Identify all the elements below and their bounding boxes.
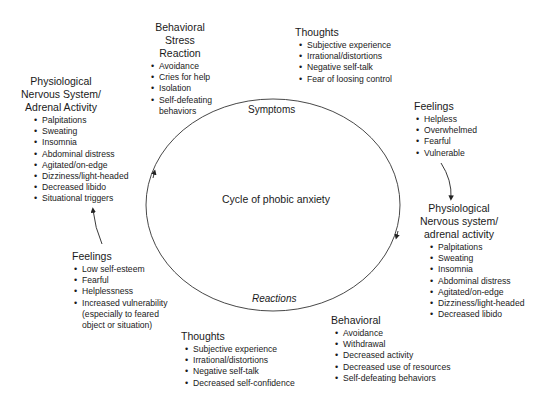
behavioral-stress-reaction-block: Behavioral Stress Reaction Avoidance Cri… xyxy=(143,21,217,117)
list-item: Helplessness xyxy=(74,286,168,297)
block-title: Behavioral Stress Reaction xyxy=(143,21,217,60)
block-list: Palpitations Sweating Insomnia Abdominal… xyxy=(34,115,128,205)
list-item: (especially to feared xyxy=(74,309,168,320)
list-item: Vulnerable xyxy=(416,148,477,159)
list-item: Low self-esteem xyxy=(74,264,168,275)
block-title: Feelings xyxy=(414,100,477,113)
list-item: Increased vulnerability xyxy=(74,298,168,309)
list-item: Decreased libido xyxy=(34,182,128,193)
feelings-to-triggers-arrow xyxy=(93,210,102,244)
list-item: Negative self-talk xyxy=(299,62,392,73)
list-item: behaviors xyxy=(151,106,217,117)
arc-label-reactions: Reactions xyxy=(252,293,296,304)
cycle-arrow-left xyxy=(153,172,155,178)
feelings-to-physiological-arrow xyxy=(441,163,451,198)
list-item: Insomnia xyxy=(34,137,128,148)
list-item: Dizziness/light-headed xyxy=(34,171,128,182)
block-list: Subjective experience Irrational/distort… xyxy=(299,40,392,85)
physiological-left-block: Physiological Nervous System/ Adrenal Ac… xyxy=(18,75,128,205)
block-list: Low self-esteem Fearful Helplessness Inc… xyxy=(74,264,168,331)
cycle-ellipse xyxy=(146,99,400,311)
center-label: Cycle of phobic anxiety xyxy=(222,193,330,205)
list-item: Insomnia xyxy=(430,264,524,275)
list-item: Fearful xyxy=(74,275,168,286)
thoughts-bottom-block: Thoughts Subjective experience Irrationa… xyxy=(181,330,295,389)
list-item: Self-defeating behaviors xyxy=(335,373,450,384)
list-item: Decreased use of resources xyxy=(335,362,450,373)
thoughts-top-block: Thoughts Subjective experience Irrationa… xyxy=(295,26,392,85)
list-item: Avoidance xyxy=(335,328,450,339)
block-list: Avoidance Withdrawal Decreased activity … xyxy=(335,328,450,384)
list-item: Cries for help xyxy=(151,72,217,83)
list-item: Subjective experience xyxy=(185,344,295,355)
list-item: Fearful xyxy=(416,136,477,147)
list-item: Agitated/on-edge xyxy=(34,160,128,171)
block-list: Helpless Overwhelmed Fearful Vulnerable xyxy=(416,114,477,159)
block-list: Avoidance Cries for help Isolation Self-… xyxy=(151,61,217,117)
list-item: Palpitations xyxy=(430,242,524,253)
list-item: Sweating xyxy=(34,126,128,137)
list-item: Avoidance xyxy=(151,61,217,72)
list-item: Subjective experience xyxy=(299,40,392,51)
list-item: Palpitations xyxy=(34,115,128,126)
block-title: Behavioral xyxy=(331,314,450,327)
list-item: Fear of loosing control xyxy=(299,74,392,85)
block-title: Physiological Nervous system/ adrenal ac… xyxy=(419,202,499,241)
block-title: Thoughts xyxy=(295,26,392,39)
block-list: Palpitations Sweating Insomnia Abdominal… xyxy=(430,242,524,320)
list-item: Decreased activity xyxy=(335,350,450,361)
block-title: Thoughts xyxy=(181,330,295,343)
list-item: Sweating xyxy=(430,253,524,264)
list-item: Irrational/distortions xyxy=(185,355,295,366)
list-item: Helpless xyxy=(416,114,477,125)
list-item: Overwhelmed xyxy=(416,125,477,136)
list-item: Abdominal distress xyxy=(430,276,524,287)
list-item: Isolation xyxy=(151,83,217,94)
list-item: Withdrawal xyxy=(335,339,450,350)
list-item: Agitated/on-edge xyxy=(430,287,524,298)
list-item: object or situation) xyxy=(74,320,168,331)
list-item: Decreased self-confidence xyxy=(185,378,295,389)
block-title: Feelings xyxy=(72,250,168,263)
feelings-right-block: Feelings Helpless Overwhelmed Fearful Vu… xyxy=(414,100,477,159)
physiological-right-block: Physiological Nervous system/ adrenal ac… xyxy=(419,202,524,320)
list-item: Self-defeating xyxy=(151,95,217,106)
list-item: Irrational/distortions xyxy=(299,51,392,62)
block-list: Subjective experience Irrational/distort… xyxy=(185,344,295,389)
list-item: Dizziness/light-headed xyxy=(430,298,524,309)
behavioral-bottom-block: Behavioral Avoidance Withdrawal Decrease… xyxy=(331,314,450,384)
feelings-left-block: Feelings Low self-esteem Fearful Helples… xyxy=(72,250,168,331)
list-item: Negative self-talk xyxy=(185,366,295,377)
list-item: Abdominal distress xyxy=(34,149,128,160)
arc-label-symptoms: Symptoms xyxy=(248,104,295,115)
cycle-arrow-right xyxy=(397,231,399,237)
block-title: Physiological Nervous System/ Adrenal Ac… xyxy=(18,75,104,114)
list-item: Situational triggers xyxy=(34,193,128,204)
